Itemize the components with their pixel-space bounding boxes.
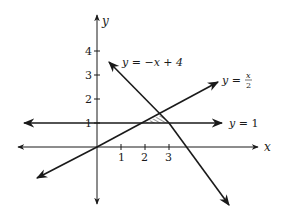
y-tick-label-1: 1 — [85, 117, 92, 130]
y-tick-label-3: 3 — [85, 69, 92, 82]
x-tick-label-2: 2 — [141, 151, 148, 164]
label-neg-x-plus-4: y = −x + 4 — [121, 56, 183, 69]
label-half-x-numerator: x — [246, 71, 251, 80]
label-y-equals-1: y = 1 — [228, 117, 258, 130]
y-tick-label-4: 4 — [85, 45, 92, 58]
x-tick-label-3: 3 — [165, 151, 172, 164]
x-tick-label-1: 1 — [118, 151, 125, 164]
line-y-equals-neg-x-plus-4-lower — [169, 123, 229, 205]
y-axis-label: y — [101, 14, 109, 28]
x-axis-label: x — [264, 140, 271, 154]
graph-figure: 1 2 3 1 2 3 4 x y y = −x + 4 y = x 2 y =… — [0, 0, 282, 215]
line-y-equals-half-x-lower — [37, 147, 97, 178]
y-tick-label-2: 2 — [85, 93, 92, 106]
line-y-equals-neg-x-plus-4 — [109, 62, 169, 123]
label-half-x: y = — [221, 74, 241, 87]
label-half-x-denominator: 2 — [246, 81, 251, 90]
line-y-equals-half-x — [97, 82, 218, 147]
